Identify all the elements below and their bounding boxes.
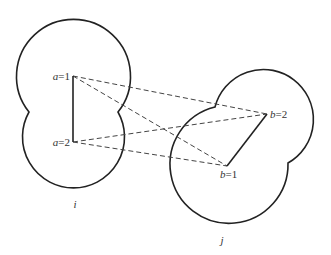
molecule-label-i: i bbox=[73, 198, 76, 210]
bond-b1-b2 bbox=[227, 114, 267, 166]
interaction-a1-b1 bbox=[73, 76, 227, 166]
site-label-b2: b=2 bbox=[270, 108, 287, 120]
site-label-a1: a=1 bbox=[53, 70, 70, 82]
interaction-a2-b2 bbox=[73, 114, 267, 142]
molecule-label-j: j bbox=[218, 234, 223, 246]
two-molecule-site-diagram: a=1 a=2 b=2 b=1 i j bbox=[0, 0, 331, 255]
interaction-a2-b1 bbox=[73, 142, 227, 166]
interaction-a1-b2 bbox=[73, 76, 267, 114]
site-label-b1: b=1 bbox=[220, 168, 237, 180]
site-label-a2: a=2 bbox=[53, 136, 70, 148]
